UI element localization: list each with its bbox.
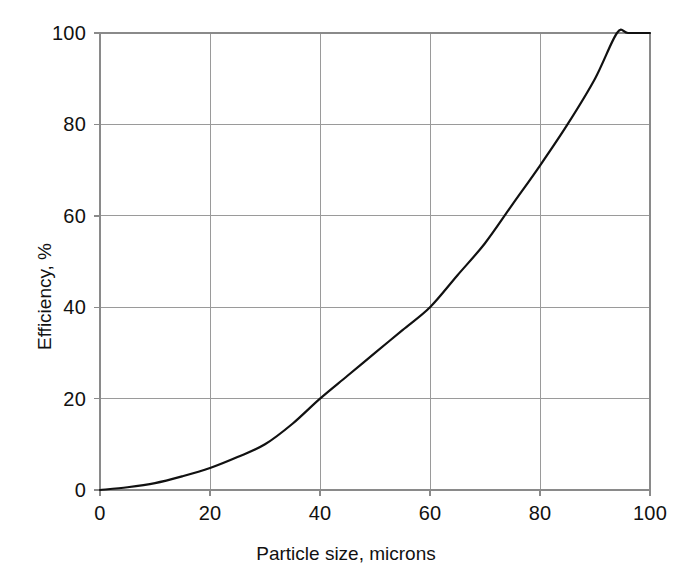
series-line-0 bbox=[100, 30, 650, 490]
x-tick-label-40: 40 bbox=[309, 502, 332, 525]
x-tick-label-60: 60 bbox=[419, 502, 442, 525]
x-tick-label-20: 20 bbox=[199, 502, 222, 525]
y-tick-label-60: 60 bbox=[20, 204, 86, 227]
chart-figure: 020406080100 020406080100 Particle size,… bbox=[0, 0, 692, 587]
x-axis-label: Particle size, microns bbox=[0, 543, 692, 565]
plot-canvas bbox=[0, 0, 692, 587]
x-tick-label-80: 80 bbox=[529, 502, 552, 525]
y-tick-label-20: 20 bbox=[20, 387, 86, 410]
y-tick-label-100: 100 bbox=[20, 22, 86, 45]
axis-ticks bbox=[94, 33, 650, 496]
y-tick-label-80: 80 bbox=[20, 113, 86, 136]
x-tick-label-0: 0 bbox=[94, 502, 105, 525]
gridlines bbox=[100, 33, 650, 490]
y-axis-label: Efficiency, % bbox=[34, 243, 56, 350]
y-tick-label-0: 0 bbox=[20, 479, 86, 502]
data-series bbox=[100, 30, 650, 490]
x-tick-label-100: 100 bbox=[633, 502, 667, 525]
axis-spines bbox=[100, 33, 650, 490]
